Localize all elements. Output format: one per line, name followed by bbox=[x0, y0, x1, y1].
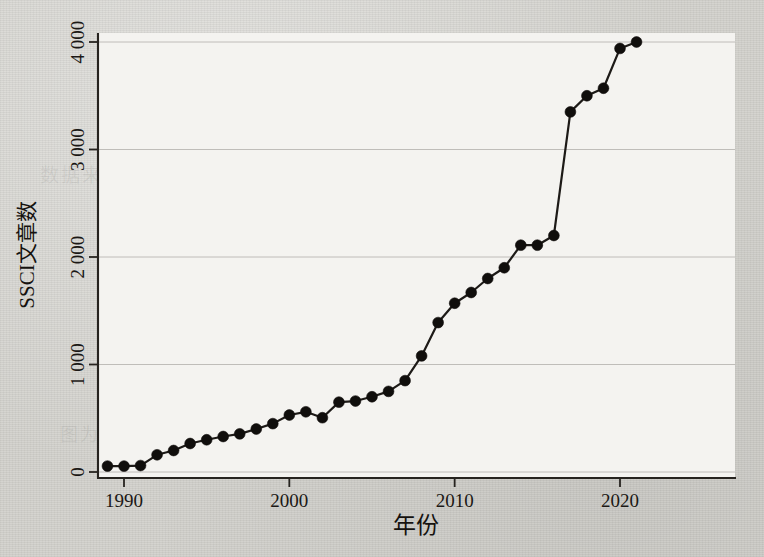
data-point-2009 bbox=[433, 317, 444, 328]
data-point-1989 bbox=[102, 461, 113, 472]
x-axis-tick-labels: 1990200020102020 bbox=[105, 490, 639, 511]
x-axis-title: 年份 bbox=[393, 513, 439, 538]
chart-svg: 01 0002 0003 0004 000 1990200020102020 S… bbox=[0, 0, 764, 557]
data-point-1995 bbox=[201, 434, 212, 445]
data-point-2004 bbox=[350, 396, 361, 407]
data-point-2020 bbox=[615, 43, 626, 54]
data-point-1997 bbox=[234, 428, 245, 439]
x-tick-label-1990: 1990 bbox=[105, 490, 143, 511]
data-point-2018 bbox=[582, 90, 593, 101]
data-point-2019 bbox=[598, 83, 609, 94]
data-point-2017 bbox=[565, 106, 576, 117]
data-point-2006 bbox=[383, 386, 394, 397]
data-point-1990 bbox=[119, 461, 130, 472]
data-point-1998 bbox=[251, 424, 262, 435]
ssci-article-count-line-chart: 01 0002 0003 0004 000 1990200020102020 S… bbox=[0, 0, 764, 557]
data-point-2007 bbox=[400, 375, 411, 386]
data-point-2014 bbox=[515, 240, 526, 251]
y-tick-label-0: 0 bbox=[67, 467, 88, 477]
data-point-2013 bbox=[499, 262, 510, 273]
x-tick-label-2010: 2010 bbox=[436, 490, 474, 511]
data-point-2008 bbox=[416, 351, 427, 362]
x-tick-label-2000: 2000 bbox=[270, 490, 308, 511]
data-point-2015 bbox=[532, 240, 543, 251]
data-point-1999 bbox=[267, 418, 278, 429]
data-point-1994 bbox=[185, 438, 196, 449]
x-axis-ticks bbox=[124, 478, 620, 487]
x-tick-label-2020: 2020 bbox=[601, 490, 639, 511]
data-point-2003 bbox=[334, 397, 345, 408]
data-point-2002 bbox=[317, 412, 328, 423]
y-tick-label-2000: 2 000 bbox=[67, 236, 88, 279]
data-point-1992 bbox=[152, 449, 163, 460]
y-tick-label-1000: 1 000 bbox=[67, 343, 88, 386]
y-axis-ticks bbox=[89, 42, 98, 472]
y-tick-label-4000: 4 000 bbox=[67, 21, 88, 64]
data-point-2011 bbox=[466, 287, 477, 298]
data-point-1996 bbox=[218, 431, 229, 442]
data-point-2005 bbox=[367, 391, 378, 402]
data-point-2021 bbox=[631, 37, 642, 48]
data-point-2012 bbox=[482, 273, 493, 284]
data-point-2001 bbox=[300, 406, 311, 417]
y-axis-title: SSCI文章数 bbox=[15, 201, 39, 308]
data-point-2010 bbox=[449, 298, 460, 309]
data-point-2000 bbox=[284, 410, 295, 421]
data-point-1991 bbox=[135, 460, 146, 471]
data-point-1993 bbox=[168, 445, 179, 456]
plot-area-background bbox=[98, 33, 735, 478]
y-tick-label-3000: 3 000 bbox=[67, 128, 88, 171]
scanned-page: 数据来源于汤森路透公司数据库SSCI 收录的文章数量统计结果在过去三十余年间呈现… bbox=[0, 0, 764, 557]
y-axis-tick-labels: 01 0002 0003 0004 000 bbox=[67, 21, 88, 477]
data-point-2016 bbox=[548, 230, 559, 241]
